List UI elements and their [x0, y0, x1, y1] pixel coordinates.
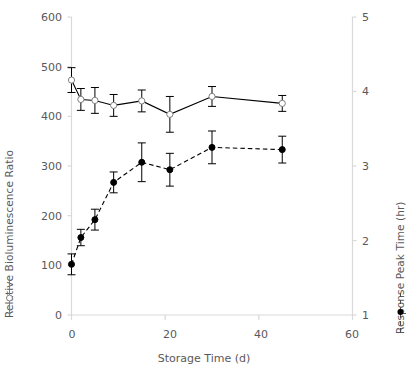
data-point-0-3 — [111, 102, 117, 108]
data-point-1-4 — [139, 159, 145, 165]
series-line-1 — [72, 147, 283, 264]
data-point-0-0 — [68, 77, 74, 83]
series-line-0 — [72, 80, 283, 114]
data-point-1-3 — [111, 179, 117, 185]
data-point-1-6 — [209, 144, 215, 150]
data-point-0-2 — [92, 97, 98, 103]
data-point-1-5 — [167, 167, 173, 173]
data-point-1-2 — [92, 217, 98, 223]
data-point-0-1 — [78, 96, 84, 102]
data-point-0-5 — [167, 111, 173, 117]
axes-layer — [68, 17, 357, 320]
data-point-0-4 — [139, 98, 145, 104]
data-point-0-6 — [209, 93, 215, 99]
data-point-0-7 — [279, 100, 285, 106]
plot-area — [0, 0, 408, 381]
data-point-1-1 — [78, 235, 84, 241]
data-point-1-7 — [279, 147, 285, 153]
series-layer — [68, 68, 287, 275]
data-point-1-0 — [69, 261, 75, 267]
chart-figure: Relative Bioluminescence Ratio Response … — [0, 0, 408, 381]
